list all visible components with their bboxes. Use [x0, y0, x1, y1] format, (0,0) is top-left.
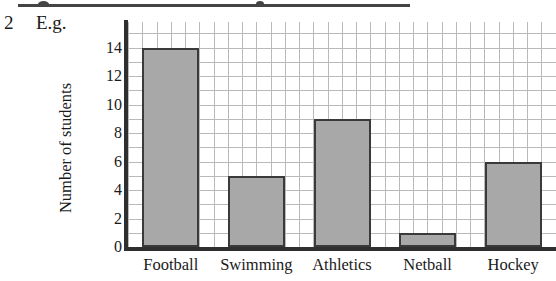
y-tick-label: 14	[96, 40, 122, 56]
y-axis-tick-labels: 02468101214	[92, 0, 122, 281]
gridline-vertical	[456, 22, 457, 249]
x-axis-line	[124, 247, 556, 251]
bar	[485, 162, 542, 248]
bar-chart: Number of students 02468101214 FootballS…	[0, 0, 556, 281]
x-category-label: Hockey	[470, 254, 556, 276]
y-tick-label: 2	[96, 211, 122, 227]
y-tick-label: 6	[96, 154, 122, 170]
y-axis-title: Number of students	[56, 43, 76, 253]
y-tick-label: 4	[96, 182, 122, 198]
gridline-vertical	[285, 22, 286, 249]
y-tick-label: 10	[96, 97, 122, 113]
gridline-vertical	[299, 22, 300, 249]
x-axis-category-labels: FootballSwimmingAthleticsNetballHockey	[128, 254, 556, 280]
y-tick-label: 8	[96, 125, 122, 141]
y-tick-label: 0	[96, 239, 122, 255]
y-axis-line	[124, 20, 128, 251]
gridline-vertical	[413, 22, 414, 249]
gridline-vertical	[385, 22, 386, 249]
x-category-label: Swimming	[214, 254, 300, 276]
gridline-vertical	[470, 22, 471, 249]
x-category-label: Athletics	[299, 254, 385, 276]
gridline-vertical	[442, 22, 443, 249]
gridline-vertical	[214, 22, 215, 249]
bar	[142, 48, 199, 248]
gridline-vertical	[427, 22, 428, 249]
bar	[228, 176, 285, 247]
gridline-vertical	[399, 22, 400, 249]
x-category-label: Netball	[385, 254, 471, 276]
bar	[314, 119, 371, 247]
plot-area	[128, 22, 556, 249]
gridline-vertical	[128, 22, 129, 249]
y-tick-label: 12	[96, 68, 122, 84]
x-category-label: Football	[128, 254, 214, 276]
bar	[399, 233, 456, 247]
